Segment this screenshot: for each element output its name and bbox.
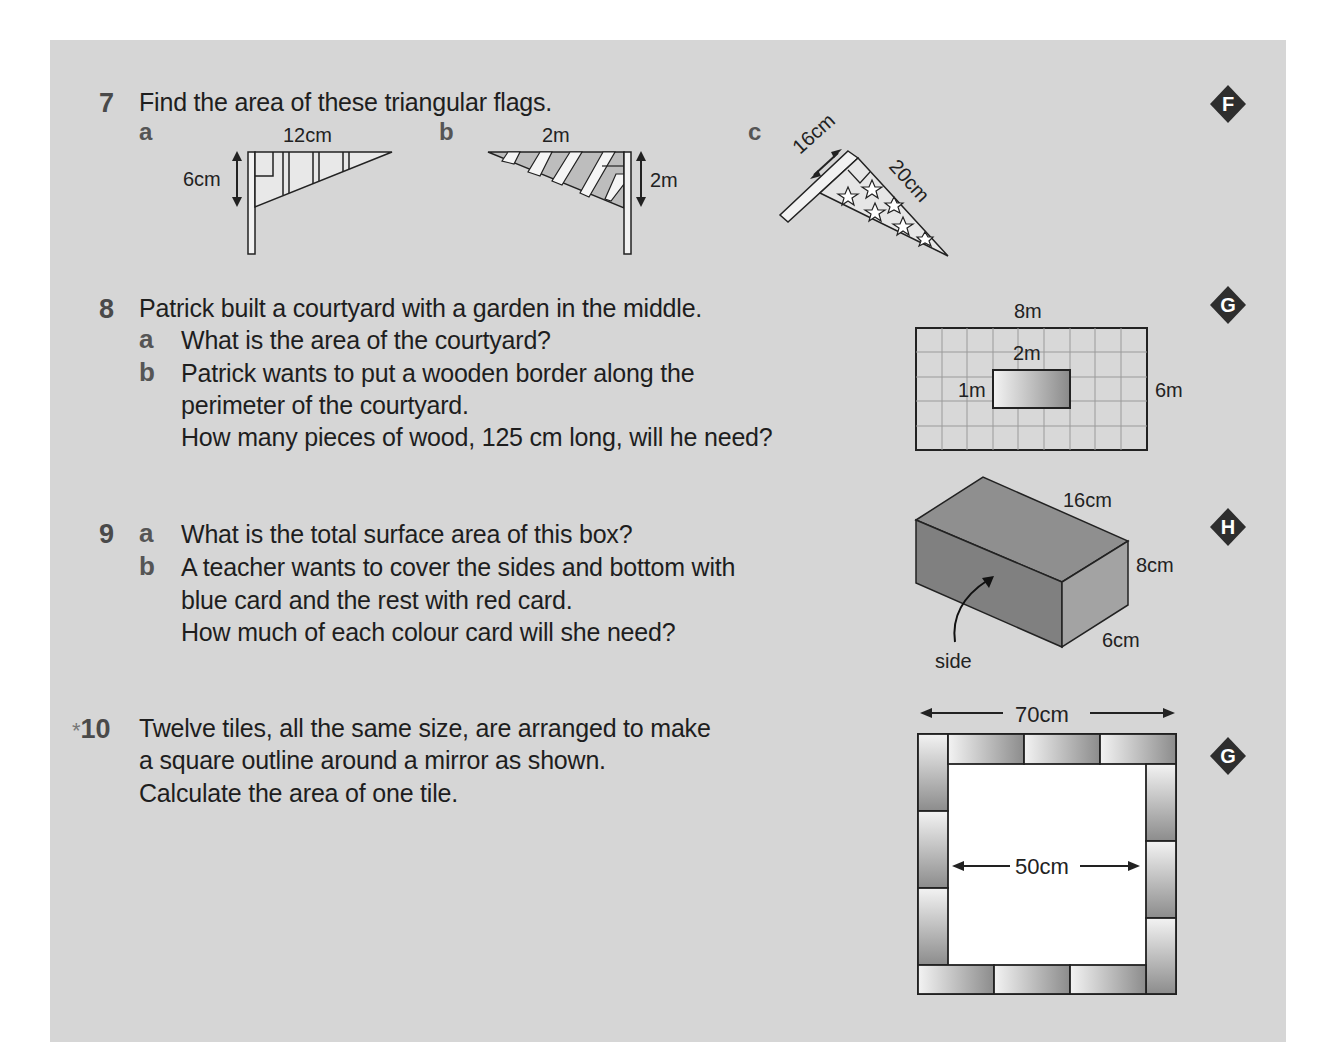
q9-part-a-text: What is the total surface area of this b…: [181, 518, 632, 551]
tile: [918, 965, 994, 994]
garden-height-label: 1m: [958, 379, 986, 401]
q9-part-b-line-1: A teacher wants to cover the sides and b…: [181, 551, 735, 584]
q8-part-b-line-3: How many pieces of wood, 125 cm long, wi…: [181, 421, 773, 454]
box-depth-label: 6cm: [1102, 629, 1140, 651]
tile: [1146, 841, 1176, 918]
tile: [1070, 965, 1146, 994]
inner-width-label: 50cm: [1015, 854, 1069, 879]
flag-b-height-label: 2m: [650, 169, 678, 191]
flag-c-diagram: 16cm 20cm: [770, 115, 960, 265]
box-length-label: 16cm: [1063, 489, 1112, 511]
tile: [918, 888, 948, 965]
difficulty-badge-g2: G: [1208, 736, 1248, 776]
svg-text:F: F: [1222, 93, 1234, 115]
difficulty-badge-g: G: [1208, 285, 1248, 325]
q8-part-b-line-1: Patrick wants to put a wooden border alo…: [181, 357, 694, 390]
flag-b-width-label: 2m: [542, 124, 570, 146]
box-diagram: 16cm 8cm 6cm side: [900, 470, 1200, 680]
q8-part-a-text: What is the area of the courtyard?: [181, 324, 551, 357]
tile: [1024, 734, 1100, 764]
q9-part-a-label: a: [139, 518, 153, 549]
tile: [1146, 764, 1176, 841]
question-7-text: Find the area of these triangular flags.: [139, 86, 552, 119]
q10-line-2: a square outline around a mirror as show…: [139, 744, 606, 777]
svg-text:G: G: [1220, 745, 1236, 767]
tile: [948, 734, 1024, 764]
q9-part-b-label: b: [139, 551, 155, 582]
garden-rect: [993, 370, 1070, 408]
difficulty-badge-f: F: [1208, 84, 1248, 124]
question-8-text: Patrick built a courtyard with a garden …: [139, 292, 702, 325]
flag-a-diagram: 12cm 6cm: [170, 118, 410, 263]
q10-line-1: Twelve tiles, all the same size, are arr…: [139, 712, 711, 745]
mirror-tiles-diagram: 70cm 50cm: [900, 690, 1200, 1010]
q8-part-b-line-2: perimeter of the courtyard.: [181, 389, 469, 422]
garden-width-label: 2m: [1013, 342, 1041, 364]
tile: [1100, 734, 1176, 764]
flag-a-triangle: [255, 152, 392, 207]
courtyard-height-label: 6m: [1155, 379, 1183, 401]
box-side-label: side: [935, 650, 972, 672]
difficulty-badge-h: H: [1208, 507, 1248, 547]
q8-part-a-label: a: [139, 324, 153, 355]
courtyard-width-label: 8m: [1014, 300, 1042, 322]
tile: [918, 734, 948, 811]
q9-part-b-line-2: blue card and the rest with red card.: [181, 584, 572, 617]
courtyard-diagram: 8m 6m 2m 1m: [900, 290, 1200, 460]
tile: [994, 965, 1070, 994]
q7-part-a-label: a: [139, 118, 152, 146]
question-10-num-text: 10: [81, 714, 111, 744]
flag-c-side1-label: 16cm: [788, 115, 839, 158]
flag-a-height-label: 6cm: [183, 168, 221, 190]
challenge-star-icon: *: [72, 718, 81, 743]
q9-part-b-line-3: How much of each colour card will she ne…: [181, 616, 675, 649]
question-8-number: 8: [99, 294, 114, 325]
q7-part-c-label: c: [748, 118, 761, 146]
flag-a-width-label: 12cm: [283, 124, 332, 146]
tile: [918, 811, 948, 888]
outer-width-label: 70cm: [1015, 702, 1069, 727]
svg-text:G: G: [1220, 294, 1236, 316]
flag-b-pole: [624, 152, 631, 254]
question-7-number: 7: [99, 88, 114, 119]
q8-part-b-label: b: [139, 357, 155, 388]
svg-text:H: H: [1221, 516, 1235, 538]
q7-part-b-label: b: [439, 118, 454, 146]
flag-b-diagram: 2m 2m: [480, 118, 710, 263]
box-height-label: 8cm: [1136, 554, 1174, 576]
question-9-number: 9: [99, 519, 114, 550]
q10-line-3: Calculate the area of one tile.: [139, 777, 458, 810]
tile: [1146, 918, 1176, 994]
question-10-number: *10: [72, 714, 111, 745]
flag-a-pole: [248, 152, 255, 254]
